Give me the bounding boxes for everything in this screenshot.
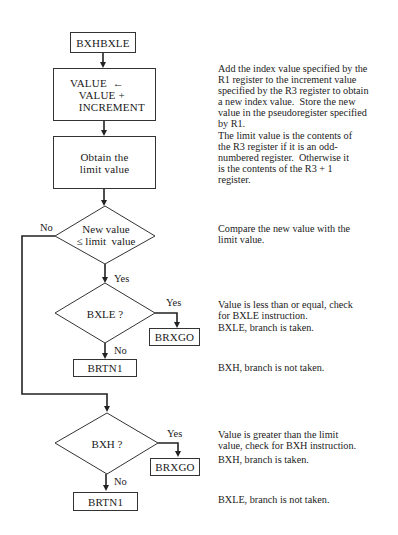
bxle-taken-box: BRXGO — [149, 328, 200, 346]
bxh-not-taken-box: BRTN1 — [73, 492, 138, 511]
description-bxh-taken: BXH, branch is taken. — [218, 455, 396, 466]
description-bxle-check: Value is less than or equal, check for B… — [218, 300, 396, 322]
bxle-not-taken-box: BRTN1 — [73, 359, 137, 377]
decision-compare-yes-label: Yes — [114, 273, 129, 284]
bxle-taken-box-label: BRXGO — [155, 331, 195, 343]
bxh-taken-box: BRXGO — [150, 458, 200, 476]
description-limit: The limit value is the contents of the R… — [218, 131, 396, 186]
description-bxh-check: Value is greater than the limit value, c… — [218, 430, 396, 452]
description-compute: Add the index value specified by the R1 … — [218, 64, 396, 129]
description-compare: Compare the new value with the limit val… — [218, 224, 396, 246]
description-bxh-not-taken: BXH, branch is not taken. — [218, 363, 396, 374]
compute-box: VALUE ← VALUE + INCREMENT — [53, 68, 156, 121]
compute-box-label: VALUE ← VALUE + INCREMENT — [70, 77, 145, 113]
decision-bxh-label: BXH ? — [77, 438, 137, 450]
decision-bxle-yes-label: Yes — [166, 297, 181, 308]
bxle-not-taken-box-label: BRTN1 — [87, 362, 122, 374]
decision-bxle-no-label: No — [114, 345, 127, 356]
bxh-taken-box-label: BRXGO — [155, 461, 195, 473]
start-box: BXHBXLE — [70, 32, 136, 53]
start-box-label: BXHBXLE — [76, 37, 129, 49]
limit-box-label: Obtain the limit value — [80, 151, 130, 175]
decision-compare-label: New value ≤ limit value — [70, 223, 142, 247]
decision-bxh-yes-label: Yes — [167, 428, 182, 439]
limit-box: Obtain the limit value — [53, 136, 156, 189]
description-bxle-not-taken: BXLE, branch is not taken. — [218, 495, 396, 506]
decision-bxle-label: BXLE ? — [75, 308, 135, 320]
decision-bxh-no-label: No — [114, 476, 127, 487]
bxh-not-taken-box-label: BRTN1 — [88, 496, 123, 508]
arrow-bxle-yes — [155, 313, 177, 326]
decision-compare-no-label: No — [40, 222, 53, 233]
arrow-bxh-yes — [158, 443, 178, 455]
description-bxle-taken: BXLE, branch is taken. — [218, 323, 396, 334]
